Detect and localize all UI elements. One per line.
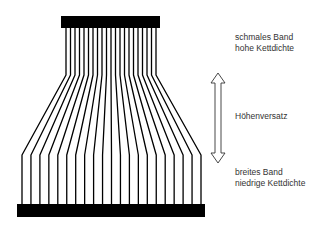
warp-threads [22, 28, 201, 204]
label-bottom-line1: breites Band [235, 167, 305, 178]
warp-thread [134, 28, 157, 204]
top-bar-narrow-band [61, 16, 160, 28]
label-bottom: breites Band niedrige Kettdichte [235, 167, 305, 189]
warp-thread [152, 28, 193, 204]
label-middle: Höhenversatz [235, 111, 287, 122]
label-top-line1: schmales Band [235, 32, 294, 43]
warp-thread [22, 28, 66, 204]
double-arrow-icon [211, 73, 225, 163]
warp-thread [85, 28, 98, 204]
warp-thread [111, 28, 112, 204]
warp-thread [125, 28, 139, 204]
label-middle-line1: Höhenversatz [235, 111, 287, 122]
label-top: schmales Band hohe Kettdichte [235, 32, 294, 54]
warp-thread [31, 28, 71, 204]
warp-thread [156, 28, 201, 204]
label-bottom-line2: niedrige Kettdichte [235, 178, 305, 189]
label-top-line2: hohe Kettdichte [235, 43, 294, 54]
warp-thread [103, 28, 107, 204]
bottom-bar-wide-band [17, 204, 205, 217]
